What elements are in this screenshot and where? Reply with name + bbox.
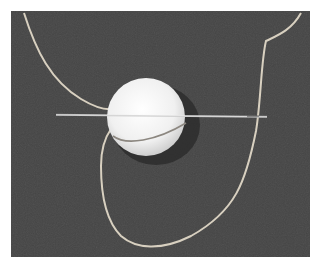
ball <box>107 78 185 156</box>
needle-eye <box>247 115 259 117</box>
photo-canvas <box>11 11 310 257</box>
photo <box>11 11 310 257</box>
